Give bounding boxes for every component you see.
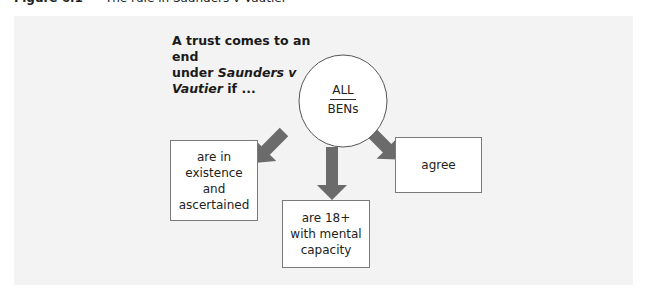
ellipse-label-bottom: BENs bbox=[313, 101, 373, 117]
arrow-to-age-capacity bbox=[317, 147, 347, 200]
condition-text: agree bbox=[421, 157, 455, 173]
condition-box-agree: agree bbox=[395, 137, 482, 193]
condition-box-existence: are in existence and ascertained bbox=[170, 140, 258, 221]
condition-text: capacity bbox=[301, 243, 352, 257]
condition-text: ascertained bbox=[179, 198, 250, 212]
condition-text: existence bbox=[185, 166, 243, 180]
all-beneficiaries-label: ALL BENs bbox=[313, 82, 373, 117]
condition-text: are 18+ bbox=[302, 211, 351, 225]
condition-text: are in bbox=[197, 150, 231, 164]
condition-text: with mental bbox=[290, 227, 361, 241]
ellipse-label-top: ALL bbox=[330, 82, 356, 100]
condition-text: and bbox=[203, 182, 226, 196]
condition-box-age-capacity: are 18+ with mental capacity bbox=[282, 200, 370, 268]
